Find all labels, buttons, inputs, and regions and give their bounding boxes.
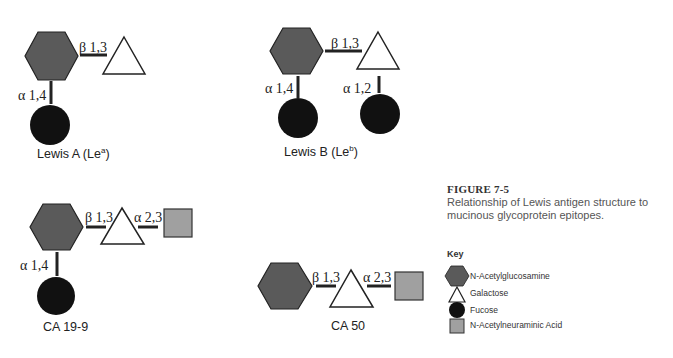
- bond-label: β 1,3: [312, 270, 340, 285]
- bond-label: α 1,2: [343, 81, 371, 96]
- circle-icon: [37, 277, 75, 315]
- key-triangle-icon: [449, 287, 465, 302]
- key-square-icon: [450, 319, 464, 333]
- key-title: Key: [447, 249, 464, 259]
- bond-label: α 2,3: [134, 210, 162, 225]
- structure-ca-19-9: β 1,3 α 2,3 α 1,4 CA 19-9: [20, 204, 192, 334]
- square-icon: [395, 272, 423, 300]
- bond-label: α 1,4: [18, 88, 46, 103]
- hexagon-icon: [30, 204, 83, 250]
- hexagon-icon: [270, 28, 323, 74]
- structure-name: CA 19-9: [43, 320, 88, 334]
- key-circle-icon: [449, 302, 465, 318]
- triangle-icon: [357, 32, 399, 69]
- bond-label: α 2,3: [363, 270, 391, 285]
- triangle-icon: [103, 37, 145, 74]
- hexagon-icon: [258, 263, 312, 309]
- bond-label: α 1,4: [265, 81, 293, 96]
- bond-label: α 1,4: [20, 258, 48, 273]
- bond-label: β 1,3: [85, 210, 113, 225]
- figure-caption: Relationship of Lewis antigen structure …: [447, 196, 667, 222]
- structure-name: Lewis A (Lea): [37, 146, 110, 161]
- key-label-fucose: Fucose: [470, 305, 498, 315]
- figure-title: FIGURE 7-5: [447, 183, 509, 195]
- key-label-n-acetylglucosamine: N-Acetylglucosamine: [470, 271, 550, 281]
- square-icon: [164, 209, 192, 237]
- structure-lewis-b: β 1,3 α 1,4 α 1,2 Lewis B (Leb): [265, 28, 400, 159]
- structure-name: Lewis B (Leb): [284, 144, 358, 159]
- lewis-antigen-diagram: β 1,3 α 1,4 Lewis A (Lea) β 1,3 α 1,4 α …: [0, 0, 673, 358]
- hexagon-icon: [25, 32, 78, 80]
- key-hexagon-icon: [445, 266, 469, 286]
- key-label-galactose: Galactose: [470, 288, 508, 298]
- circle-icon: [360, 94, 400, 134]
- circle-icon: [278, 98, 318, 138]
- structure-lewis-a: β 1,3 α 1,4 Lewis A (Lea): [18, 32, 145, 161]
- structure-ca-50: β 1,3 α 2,3 CA 50: [258, 263, 423, 333]
- key-icons: [445, 266, 469, 333]
- key-label-n-acetylneuraminic-acid: N-Acetylneuraminic Acid: [470, 320, 562, 330]
- structure-name: CA 50: [331, 319, 365, 333]
- circle-icon: [30, 105, 70, 145]
- bond-label: β 1,3: [331, 36, 359, 51]
- bond-label: β 1,3: [79, 40, 107, 55]
